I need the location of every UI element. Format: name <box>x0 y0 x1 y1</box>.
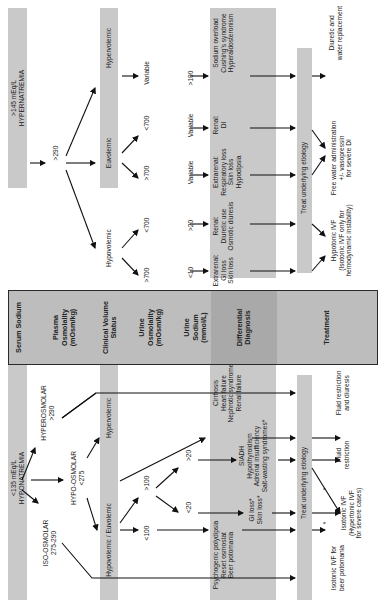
flow-arrows <box>0 0 386 608</box>
hyponatremia-hypernatremia-flowchart: Serum Sodium Plasma Osmolality (mOsm/kg)… <box>0 0 386 608</box>
